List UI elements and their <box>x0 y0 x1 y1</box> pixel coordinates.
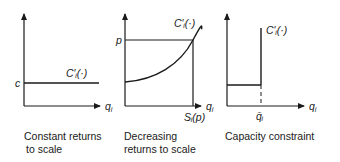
x-tick-supply: Sᵢ(p) <box>184 111 205 123</box>
x-axis-label: qi <box>105 100 113 113</box>
x-axis-label: qi <box>309 100 317 113</box>
curve-label: C′ᵢ(·) <box>66 67 87 79</box>
panel-capacity-constraint: C′ᵢ(·) qi q̄ᵢ Capacity constraint <box>225 14 317 142</box>
panel-decreasing-returns: p C′ᵢ(·) qi Sᵢ(p) Decreasing returns to … <box>115 14 214 155</box>
curve-label: C′ᵢ(·) <box>174 17 195 29</box>
caption-line-2: to scale <box>26 143 62 155</box>
curve-label: C′ᵢ(·) <box>266 24 287 36</box>
caption-line-1: Constant returns <box>24 130 102 142</box>
caption-line-2: returns to scale <box>124 143 196 155</box>
x-tick-capacity: q̄ᵢ <box>256 110 264 122</box>
caption-line-1: Decreasing <box>124 130 177 142</box>
x-axis-label: qi <box>206 100 214 113</box>
diagram-canvas: c C′ᵢ(·) qi Constant returns to scale p … <box>0 0 340 162</box>
marginal-cost-curve <box>125 26 202 82</box>
y-label-p: p <box>115 34 122 46</box>
panel-constant-returns: c C′ᵢ(·) qi Constant returns to scale <box>15 14 113 155</box>
y-label-c: c <box>15 77 21 89</box>
caption-line-1: Capacity constraint <box>225 130 314 142</box>
